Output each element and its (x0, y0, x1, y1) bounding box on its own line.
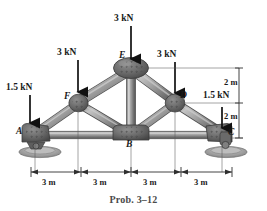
load-label-C: 1.5 kN (203, 91, 229, 101)
joint-label-E: E (119, 51, 125, 61)
joint-label-D: D (180, 91, 187, 101)
joint-label-F: F (64, 92, 70, 102)
joint-B-gusset (113, 125, 149, 140)
dim-label-h4: 3 m (194, 178, 207, 187)
load-label-A: 1.5 kN (6, 83, 32, 93)
joint-label-B: B (126, 140, 132, 150)
figure-canvas: 1.5 kN 3 kN 3 kN 3 kN 1.5 kN A B C D E F… (0, 0, 267, 211)
dim-label-v2: 2 m (224, 112, 237, 121)
load-label-F: 3 kN (57, 48, 76, 58)
truss-drawing (0, 0, 267, 211)
dim-label-h1: 3 m (42, 178, 55, 187)
dim-label-h2: 3 m (93, 178, 106, 187)
load-label-E: 3 kN (114, 14, 133, 24)
joint-A-gusset (22, 124, 50, 150)
dim-label-v1: 2 m (224, 78, 237, 87)
dim-label-h3: 3 m (143, 178, 156, 187)
horizontal-dimension-chain (31, 167, 232, 177)
joint-label-C: C (228, 128, 234, 138)
load-label-D: 3 kN (157, 50, 176, 60)
joint-label-A: A (16, 127, 22, 137)
figure-caption: Prob. 3–12 (0, 194, 267, 205)
joint-F-gusset (69, 94, 88, 112)
